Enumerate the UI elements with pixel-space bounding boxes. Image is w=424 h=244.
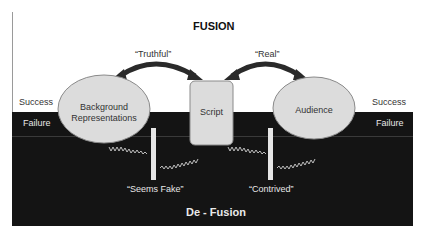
audience-label: Audience [273,105,355,116]
background-representations-label: Background Representations [58,102,150,124]
left-failure-label: Failure [23,118,51,128]
truthful-label: “Truthful” [135,49,171,59]
right-failure-label: Failure [376,118,404,128]
script-label: Script [190,107,233,118]
truthful-arrow-icon [111,64,203,80]
seems-fake-label: “Seems Fake” [127,184,184,194]
fusion-title: FUSION [193,20,235,32]
real-arrow-icon [224,64,309,80]
defusion-title: De - Fusion [186,206,246,218]
background-label-line2: Representations [58,113,150,124]
fusion-diagram: FUSION De - Fusion “Truthful” “Real” Bac… [0,0,424,244]
real-label: “Real” [255,49,280,59]
left-break-bar [151,128,156,180]
left-success-label: Success [19,97,53,107]
right-success-label: Success [372,97,406,107]
background-label-line1: Background [58,102,150,113]
contrived-label: “Contrived” [249,184,294,194]
right-break-bar [268,128,273,180]
